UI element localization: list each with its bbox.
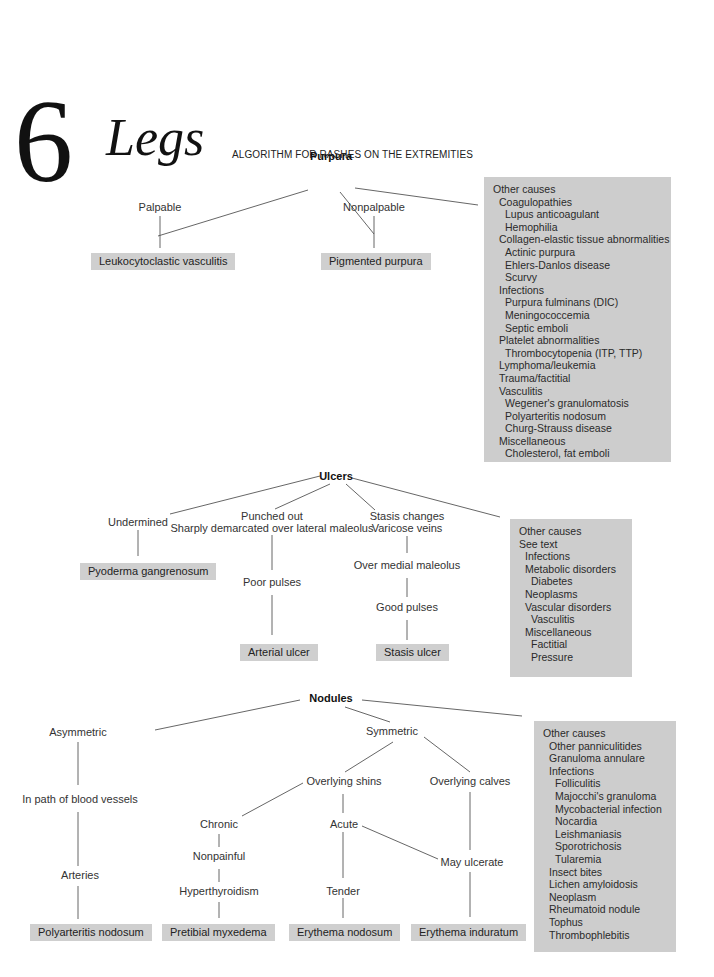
- other-cause-item: Actinic purpura: [493, 246, 662, 259]
- other-cause-item: Thrombophlebitis: [543, 929, 667, 942]
- other-cause-item: Rheumatoid nodule: [543, 903, 667, 916]
- other-cause-item: Neoplasm: [543, 891, 667, 904]
- other-cause-item: Majocchi's granuloma: [543, 790, 667, 803]
- other-cause-item: Vascular disorders: [519, 601, 623, 614]
- other-cause-item: Trauma/factitial: [493, 372, 662, 385]
- diagnosis-erythema-nodosum: Erythema nodosum: [289, 924, 400, 941]
- diagnosis-stasis-ulcer: Stasis ulcer: [376, 644, 449, 661]
- other-cause-item: Factitial: [519, 638, 623, 651]
- other-cause-item: Tularemia: [543, 853, 667, 866]
- node-overlying-calves: Overlying calves: [430, 775, 511, 788]
- node-acute: Acute: [330, 818, 358, 831]
- other-cause-item: See text: [519, 538, 623, 551]
- other-cause-item: Polyarteritis nodosum: [493, 410, 662, 423]
- node-chronic: Chronic: [200, 818, 238, 831]
- other-cause-item: Wegener's granulomatosis: [493, 397, 662, 410]
- node-varicose-veins: Varicose veins: [372, 522, 443, 535]
- node-poor-pulses: Poor pulses: [243, 576, 301, 589]
- other-cause-item: Other causes: [543, 727, 667, 740]
- other-cause-item: Miscellaneous: [519, 626, 623, 639]
- other-cause-item: Other causes: [493, 183, 662, 196]
- purpura-other-causes-box: Other causesCoagulopathiesLupus anticoag…: [484, 177, 671, 462]
- ulcers-root: Ulcers: [319, 470, 353, 483]
- node-nonpalpable: Nonpalpable: [343, 201, 405, 214]
- nodules-root: Nodules: [309, 692, 352, 705]
- diagnosis-pyoderma-gangrenosum: Pyoderma gangrenosum: [80, 563, 216, 580]
- purpura-root: Purpura: [310, 150, 352, 163]
- other-cause-item: Scurvy: [493, 271, 662, 284]
- other-cause-item: Folliculitis: [543, 777, 667, 790]
- other-cause-item: Septic emboli: [493, 322, 662, 335]
- node-asymmetric: Asymmetric: [49, 726, 106, 739]
- other-cause-item: Infections: [543, 765, 667, 778]
- other-cause-item: Metabolic disorders: [519, 563, 623, 576]
- other-cause-item: Thrombocytopenia (ITP, TTP): [493, 347, 662, 360]
- other-cause-item: Diabetes: [519, 575, 623, 588]
- diagnosis-polyarteritis-nodosum: Polyarteritis nodosum: [30, 924, 152, 941]
- other-cause-item: Pressure: [519, 651, 623, 664]
- node-arteries: Arteries: [61, 869, 99, 882]
- node-nonpainful: Nonpainful: [193, 850, 246, 863]
- other-cause-item: Insect bites: [543, 866, 667, 879]
- other-cause-item: Infections: [493, 284, 662, 297]
- other-cause-item: Purpura fulminans (DIC): [493, 296, 662, 309]
- other-cause-item: Nocardia: [543, 815, 667, 828]
- other-cause-item: Cholesterol, fat emboli: [493, 447, 662, 460]
- other-cause-item: Miscellaneous: [493, 435, 662, 448]
- diagnosis-leukocytoclastic-vasculitis: Leukocytoclastic vasculitis: [91, 253, 235, 270]
- other-cause-item: Neoplasms: [519, 588, 623, 601]
- nodules-other-causes-box: Other causesOther panniculitidesGranulom…: [534, 721, 676, 952]
- other-cause-item: Granuloma annulare: [543, 752, 667, 765]
- other-cause-item: Vasculitis: [519, 613, 623, 626]
- diagnosis-pigmented-purpura: Pigmented purpura: [321, 253, 431, 270]
- other-cause-item: Lupus anticoagulant: [493, 208, 662, 221]
- other-cause-item: Sporotrichosis: [543, 840, 667, 853]
- other-cause-item: Tophus: [543, 916, 667, 929]
- node-undermined: Undermined: [108, 516, 168, 529]
- diagnosis-arterial-ulcer: Arterial ulcer: [240, 644, 318, 661]
- other-cause-item: Lymphoma/leukemia: [493, 359, 662, 372]
- node-tender: Tender: [326, 885, 360, 898]
- other-cause-item: Vasculitis: [493, 385, 662, 398]
- diagnosis-erythema-induratum: Erythema induratum: [411, 924, 526, 941]
- node-good-pulses: Good pulses: [376, 601, 438, 614]
- node-in-path-of-blood-vessels: In path of blood vessels: [22, 793, 138, 806]
- other-cause-item: Other causes: [519, 525, 623, 538]
- other-cause-item: Collagen-elastic tissue abnormalities: [493, 233, 662, 246]
- other-cause-item: Leishmaniasis: [543, 828, 667, 841]
- node-may-ulcerate: May ulcerate: [441, 856, 504, 869]
- other-cause-item: Meningococcemia: [493, 309, 662, 322]
- other-cause-item: Other panniculitides: [543, 740, 667, 753]
- node-hyperthyroidism: Hyperthyroidism: [179, 885, 258, 898]
- other-cause-item: Ehlers-Danlos disease: [493, 259, 662, 272]
- node-overlying-shins: Overlying shins: [306, 775, 381, 788]
- node-over-medial-maleolus: Over medial maleolus: [354, 559, 460, 572]
- other-cause-item: Churg-Strauss disease: [493, 422, 662, 435]
- diagnosis-pretibial-myxedema: Pretibial myxedema: [162, 924, 275, 941]
- other-cause-item: Platelet abnormalities: [493, 334, 662, 347]
- node-symmetric: Symmetric: [366, 725, 418, 738]
- ulcers-other-causes-box: Other causesSee textInfectionsMetabolic …: [510, 519, 632, 677]
- other-cause-item: Lichen amyloidosis: [543, 878, 667, 891]
- other-cause-item: Hemophilia: [493, 221, 662, 234]
- node-sharply-demarcated: Sharply demarcated over lateral maleolus: [171, 522, 374, 535]
- node-palpable: Palpable: [139, 201, 182, 214]
- other-cause-item: Mycobacterial infection: [543, 803, 667, 816]
- other-cause-item: Infections: [519, 550, 623, 563]
- other-cause-item: Coagulopathies: [493, 196, 662, 209]
